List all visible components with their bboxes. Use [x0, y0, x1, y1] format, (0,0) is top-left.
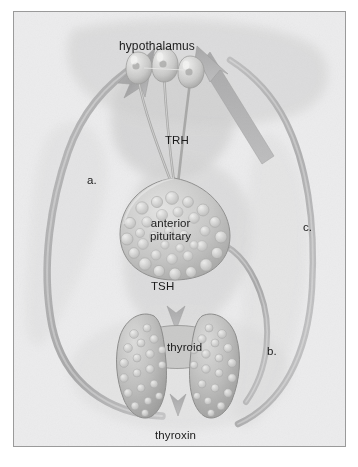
- label-thyroxin: thyroxin: [155, 429, 196, 442]
- figure-container: hypothalamus TRH anterior pituitary TSH …: [0, 0, 358, 467]
- label-c: c.: [303, 221, 312, 234]
- label-trh: TRH: [165, 134, 189, 147]
- label-tsh: TSH: [151, 280, 174, 293]
- label-a: a.: [87, 174, 97, 187]
- diagram-frame: hypothalamus TRH anterior pituitary TSH …: [13, 11, 346, 447]
- label-anterior-pituitary-line1: anterior: [150, 217, 191, 230]
- label-anterior-pituitary: anterior pituitary: [150, 217, 191, 242]
- label-hypothalamus: hypothalamus: [119, 40, 195, 53]
- label-anterior-pituitary-line2: pituitary: [150, 230, 191, 243]
- label-thyroid: thyroid: [167, 341, 202, 354]
- label-b: b.: [267, 345, 277, 358]
